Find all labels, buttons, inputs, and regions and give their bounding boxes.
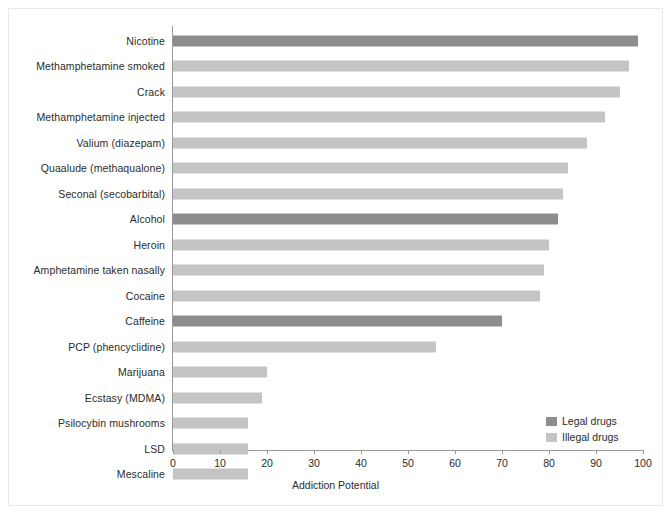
chart-row: Crack — [0, 79, 671, 105]
chart-row: PCP (phencyclidine) — [0, 334, 671, 360]
bar-legal[interactable] — [173, 214, 558, 225]
category-label: Quaalude (methaqualone) — [41, 162, 165, 174]
category-label: PCP (phencyclidine) — [68, 341, 165, 353]
bar-illegal[interactable] — [173, 392, 262, 403]
legend-swatch-illegal — [546, 433, 557, 442]
legend-item[interactable]: Legal drugs — [546, 414, 619, 428]
chart-row: Amphetamine taken nasally — [0, 258, 671, 284]
bar-illegal[interactable] — [173, 137, 587, 148]
x-tick — [314, 450, 315, 454]
bar-illegal[interactable] — [173, 163, 568, 174]
category-label: Alcohol — [130, 213, 165, 225]
x-tick — [220, 450, 221, 454]
legend-label: Legal drugs — [562, 415, 617, 427]
chart-page: NicotineMethamphetamine smokedCrackMetha… — [0, 0, 671, 514]
x-tick-label: 20 — [261, 457, 273, 469]
bar-illegal[interactable] — [173, 341, 436, 352]
x-tick-label: 30 — [308, 457, 320, 469]
bar-illegal[interactable] — [173, 418, 248, 429]
chart-row: Cocaine — [0, 283, 671, 309]
x-tick — [502, 450, 503, 454]
x-tick-label: 50 — [402, 457, 414, 469]
chart-row: Methamphetamine smoked — [0, 54, 671, 80]
bar-illegal[interactable] — [173, 61, 629, 72]
bar-illegal[interactable] — [173, 290, 540, 301]
category-label: Psilocybin mushrooms — [58, 417, 165, 429]
bar-illegal[interactable] — [173, 112, 605, 123]
category-label: Marijuana — [118, 366, 165, 378]
chart-row: Ecstasy (MDMA) — [0, 385, 671, 411]
x-tick — [173, 450, 174, 454]
bar-illegal[interactable] — [173, 86, 620, 97]
x-tick — [408, 450, 409, 454]
bar-illegal[interactable] — [173, 239, 549, 250]
chart-row: Seconal (secobarbital) — [0, 181, 671, 207]
x-axis-title: Addiction Potential — [0, 479, 671, 491]
x-tick-label: 80 — [543, 457, 555, 469]
bar-legal[interactable] — [173, 316, 502, 327]
chart-row: Marijuana — [0, 360, 671, 386]
category-label: Heroin — [133, 239, 165, 251]
category-label: Methamphetamine smoked — [36, 60, 165, 72]
x-tick-label: 100 — [634, 457, 652, 469]
category-label: Valium (diazepam) — [77, 137, 165, 149]
chart-row: Methamphetamine injected — [0, 105, 671, 131]
legend-swatch-legal — [546, 417, 557, 426]
x-tick-label: 0 — [170, 457, 176, 469]
chart-row: Caffeine — [0, 309, 671, 335]
x-tick — [455, 450, 456, 454]
x-tick — [267, 450, 268, 454]
x-tick — [549, 450, 550, 454]
bar-illegal[interactable] — [173, 265, 544, 276]
chart-row: Alcohol — [0, 207, 671, 233]
category-label: Amphetamine taken nasally — [34, 264, 166, 276]
bar-illegal[interactable] — [173, 367, 267, 378]
bar-illegal[interactable] — [173, 443, 248, 454]
legend-item[interactable]: Illegal drugs — [546, 430, 619, 444]
category-label: Crack — [137, 86, 165, 98]
x-tick-label: 10 — [214, 457, 226, 469]
category-label: Ecstasy (MDMA) — [85, 392, 165, 404]
chart-row: Valium (diazepam) — [0, 130, 671, 156]
category-label: Nicotine — [126, 35, 165, 47]
category-label: Caffeine — [125, 315, 165, 327]
category-label: Seconal (secobarbital) — [58, 188, 165, 200]
plot-area: NicotineMethamphetamine smokedCrackMetha… — [0, 0, 671, 514]
chart-legend: Legal drugsIllegal drugs — [546, 414, 619, 446]
x-tick-label: 60 — [449, 457, 461, 469]
bar-illegal[interactable] — [173, 188, 563, 199]
category-label: LSD — [144, 443, 165, 455]
x-tick-label: 40 — [355, 457, 367, 469]
category-label: Methamphetamine injected — [37, 111, 165, 123]
x-tick-label: 90 — [590, 457, 602, 469]
chart-row: Quaalude (methaqualone) — [0, 156, 671, 182]
x-tick — [643, 450, 644, 454]
chart-row: Nicotine — [0, 28, 671, 54]
bar-legal[interactable] — [173, 35, 638, 46]
legend-label: Illegal drugs — [562, 431, 619, 443]
x-tick — [596, 450, 597, 454]
chart-row: Heroin — [0, 232, 671, 258]
x-tick-label: 70 — [496, 457, 508, 469]
x-tick — [361, 450, 362, 454]
category-label: Cocaine — [126, 290, 165, 302]
